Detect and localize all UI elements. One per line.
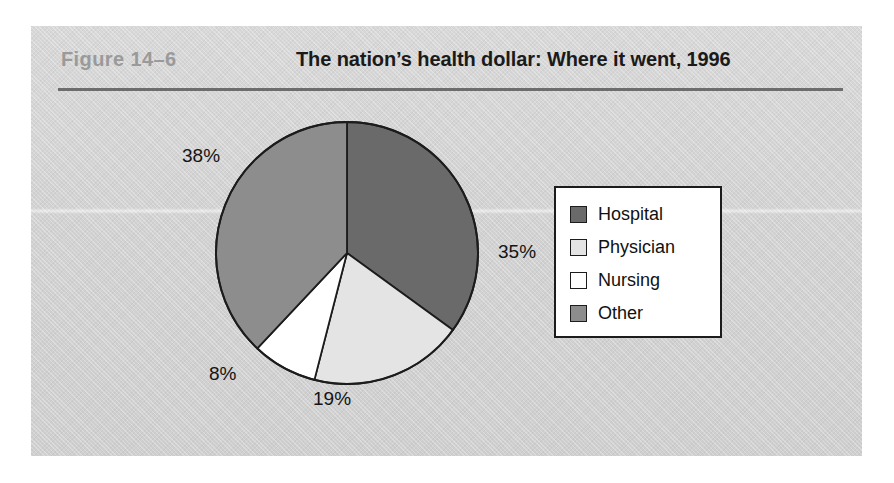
figure-panel: Figure 14–6 The nation’s health dollar: … <box>31 26 862 456</box>
legend-item: Other <box>570 297 720 330</box>
slice-label-other: 38% <box>182 145 220 167</box>
legend-swatch-nursing <box>570 272 587 289</box>
legend-swatch-hospital <box>570 206 587 223</box>
legend-item: Hospital <box>570 198 720 231</box>
legend-label: Physician <box>598 237 675 258</box>
legend-swatch-other <box>570 305 587 322</box>
legend-label: Nursing <box>598 270 660 291</box>
slice-label-physician: 19% <box>313 388 351 410</box>
legend-label: Hospital <box>598 204 663 225</box>
slice-label-hospital: 35% <box>498 241 536 263</box>
legend-item: Physician <box>570 231 720 264</box>
legend-item: Nursing <box>570 264 720 297</box>
pie-svg <box>31 26 862 456</box>
slice-label-nursing: 8% <box>209 363 236 385</box>
legend-label: Other <box>598 303 643 324</box>
pie-chart <box>31 26 862 456</box>
legend: Hospital Physician Nursing Other <box>554 186 722 338</box>
legend-swatch-physician <box>570 239 587 256</box>
